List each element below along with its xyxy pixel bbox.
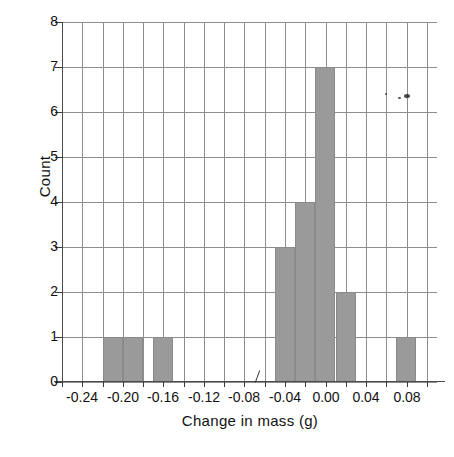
y-tick-label: 8 bbox=[50, 13, 58, 29]
gridline-horizontal bbox=[62, 247, 437, 248]
x-tick-label: -0.24 bbox=[66, 389, 98, 405]
y-tick-label: 0 bbox=[50, 373, 58, 389]
histogram-bar bbox=[123, 337, 143, 382]
y-tick-label: 7 bbox=[50, 58, 58, 74]
histogram-bar bbox=[275, 247, 295, 382]
x-tick-mark bbox=[305, 382, 306, 387]
x-tick-label: -0.12 bbox=[188, 389, 220, 405]
scan-artifact-speck bbox=[404, 94, 410, 98]
histogram-chart: Count Change in mass (g) 012345678-0.24-… bbox=[0, 0, 454, 457]
x-tick-mark bbox=[163, 382, 164, 387]
scan-artifact-speck bbox=[385, 93, 387, 95]
gridline-horizontal bbox=[62, 382, 437, 383]
x-tick-mark bbox=[184, 382, 185, 387]
x-tick-mark bbox=[82, 382, 83, 387]
x-tick-label: -0.20 bbox=[107, 389, 139, 405]
plot-area: 012345678-0.24-0.20-0.16-0.12-0.08-0.040… bbox=[62, 22, 437, 382]
x-tick-label: -0.16 bbox=[147, 389, 179, 405]
y-tick-label: 5 bbox=[50, 148, 58, 164]
gridline-horizontal bbox=[62, 292, 437, 293]
x-tick-mark bbox=[103, 382, 104, 387]
gridline-horizontal bbox=[62, 157, 437, 158]
gridline-horizontal bbox=[62, 67, 437, 68]
x-tick-mark bbox=[386, 382, 387, 387]
x-tick-mark bbox=[366, 382, 367, 387]
x-tick-mark bbox=[204, 382, 205, 387]
x-tick-mark bbox=[407, 382, 408, 387]
x-tick-mark bbox=[326, 382, 327, 387]
x-tick-mark bbox=[244, 382, 245, 387]
plot-inner bbox=[62, 22, 437, 382]
x-tick-mark bbox=[224, 382, 225, 387]
x-tick-mark bbox=[285, 382, 286, 387]
histogram-bar bbox=[103, 337, 123, 382]
gridline-horizontal bbox=[62, 22, 437, 23]
histogram-bar bbox=[396, 337, 416, 382]
y-tick-label: 3 bbox=[50, 238, 58, 254]
scan-artifact-speck bbox=[398, 97, 401, 99]
x-axis-title: Change in mass (g) bbox=[62, 412, 438, 429]
x-tick-mark bbox=[265, 382, 266, 387]
histogram-bar bbox=[336, 292, 356, 382]
x-tick-mark bbox=[143, 382, 144, 387]
x-tick-mark bbox=[123, 382, 124, 387]
x-tick-label: -0.04 bbox=[269, 389, 301, 405]
x-tick-mark bbox=[427, 382, 428, 387]
y-tick-label: 2 bbox=[50, 283, 58, 299]
gridline-horizontal bbox=[62, 112, 437, 113]
histogram-bar bbox=[315, 67, 335, 382]
x-tick-label: 0.08 bbox=[393, 389, 420, 405]
x-tick-mark bbox=[62, 382, 63, 387]
gridline-horizontal bbox=[62, 202, 437, 203]
y-axis-line bbox=[62, 22, 63, 382]
x-tick-label: 0.04 bbox=[352, 389, 379, 405]
x-tick-mark bbox=[346, 382, 347, 387]
histogram-bar bbox=[153, 337, 173, 382]
y-tick-label: 4 bbox=[50, 193, 58, 209]
x-tick-label: 0.00 bbox=[312, 389, 339, 405]
y-tick-label: 6 bbox=[50, 103, 58, 119]
histogram-bar bbox=[295, 202, 315, 382]
y-tick-label: 1 bbox=[50, 328, 58, 344]
x-tick-label: -0.08 bbox=[228, 389, 260, 405]
